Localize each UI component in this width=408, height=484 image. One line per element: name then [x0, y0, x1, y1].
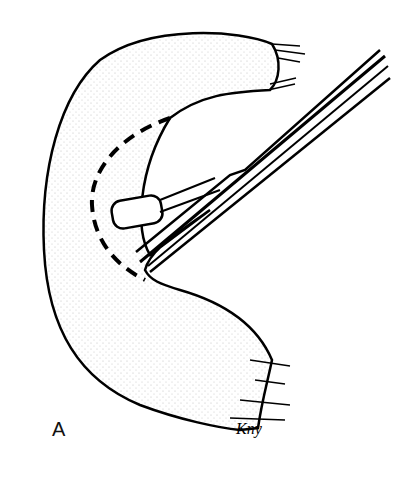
medical-illustration: A Kny — [0, 0, 408, 484]
organ-drawing — [0, 0, 408, 484]
artist-signature: Kny — [236, 420, 262, 438]
panel-label: A — [52, 418, 65, 441]
